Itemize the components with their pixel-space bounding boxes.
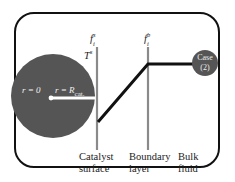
fs-label: fsi	[90, 33, 99, 45]
particle-center-dot	[49, 96, 54, 101]
region-label-line2: fluid	[178, 163, 198, 175]
fb-sub: i	[147, 38, 149, 50]
region-label-bulk-fluid: Bulk fluid	[178, 151, 198, 175]
region-label-boundary-layer: Boundary layer	[129, 151, 170, 175]
region-label-catalyst-surface: Catalyst surface	[79, 151, 113, 175]
region-label-line2: layer	[129, 163, 170, 175]
fs-sub: i	[93, 38, 95, 50]
case-badge-label: Case (2)	[192, 53, 218, 73]
surface-radius-sub: cat.	[75, 90, 85, 98]
case-badge-line2: (2)	[192, 63, 218, 73]
ts-label: Ts	[84, 46, 93, 62]
region-label-line1: Bulk	[178, 151, 198, 163]
region-label-line2: surface	[79, 163, 113, 175]
region-label-line1: Catalyst	[79, 151, 113, 163]
case-badge-line1: Case	[192, 53, 218, 63]
surface-radius-prefix: r = R	[55, 85, 75, 95]
ts-sup: s	[90, 48, 93, 56]
surface-radius-label: r = Rcat.	[55, 85, 85, 98]
region-label-line1: Boundary	[129, 151, 170, 163]
center-radius-label: r = 0	[22, 85, 41, 95]
fb-label: fbi	[144, 33, 153, 45]
